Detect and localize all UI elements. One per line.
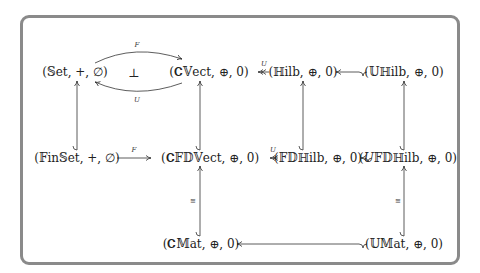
adjoint-symbol: ⊥	[128, 66, 139, 80]
node-finset: (𝔽in𝕊et, +, ∅)	[34, 152, 119, 164]
node-cvect: (𝐂𝕍ect, ⊕, 0)	[169, 66, 248, 78]
label-F-finset-cfdvect: F	[132, 147, 137, 154]
edge-finset-set	[73, 81, 77, 150]
node-hilb: (ℍilb, ⊕, 0)	[268, 66, 337, 78]
node-set: (𝕊et, +, ∅)	[42, 66, 107, 78]
edge-fdhilb-hilb	[299, 81, 303, 150]
edge-ufdhilb-uhilb	[400, 81, 404, 150]
node-umat: (𝕌𝕄at, ⊕, 0)	[365, 238, 443, 250]
label-F-top: F	[135, 42, 140, 49]
label-U-fdhilb-cfdvect: U	[270, 147, 276, 154]
label-U-hilb-cvect: U	[261, 61, 267, 68]
edge-uhilb-hilb	[336, 72, 367, 76]
label-iso-right: ≅	[395, 197, 401, 205]
edge-cmat-cfdvect	[196, 166, 200, 236]
node-cfdvect: (𝐂𝔽𝔻𝕍ect, ⊕, 0)	[161, 152, 259, 164]
node-ufdhilb: (𝑈𝔽𝔻ℍilb, ⊕, 0)	[359, 152, 457, 164]
edge-cfdvect-cvect	[196, 81, 200, 150]
edge-U-cvect-set	[95, 82, 182, 91]
edge-umat-cmat	[237, 244, 367, 248]
node-cmat: (𝐂𝕄at, ⊕, 0)	[163, 238, 240, 250]
node-fdhilb: (𝔽𝔻ℍilb, ⊕, 0)	[274, 152, 362, 164]
node-uhilb: (𝕌ℍilb, ⊕, 0)	[364, 66, 443, 78]
diagram-edges	[0, 0, 480, 273]
label-iso-left: ≅	[190, 197, 196, 205]
label-U-bottom: U	[134, 97, 140, 104]
edge-F-set-cvect	[95, 52, 182, 63]
